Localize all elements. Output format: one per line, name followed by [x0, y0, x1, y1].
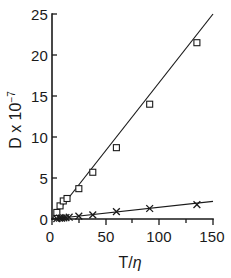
x-axis-title-numerator: T [118, 254, 128, 271]
x-tick-label-0: 0 [46, 228, 55, 245]
y-tick-label-25: 25 [31, 6, 48, 23]
y-tick-label-20: 20 [31, 47, 48, 64]
y-axis-title-main: D x 10 [7, 102, 24, 148]
data-point-square [90, 169, 96, 175]
x-tick-label-50: 50 [97, 228, 114, 245]
x-axis-title: T/η [118, 254, 141, 271]
x-tick-label-100: 100 [146, 228, 172, 245]
x-axis-title-denominator: η [133, 254, 142, 271]
x-axis-tick-labels: 0 50 100 150 [46, 228, 225, 245]
y-tick-label-5: 5 [39, 170, 48, 187]
series-markers [53, 40, 200, 222]
data-point-square [113, 145, 119, 151]
y-tick-label-15: 15 [31, 88, 48, 105]
y-tick-label-10: 10 [31, 129, 48, 146]
data-point-square [64, 196, 70, 202]
data-point-square [194, 40, 200, 46]
data-point-square [147, 101, 153, 107]
x-axis-ticks [52, 219, 213, 225]
scatter-plot: 0 5 10 15 20 25 0 50 100 150 D x 1 [0, 0, 231, 278]
x-tick-label-150: 150 [199, 228, 225, 245]
fit-line-crosses [52, 201, 213, 219]
chart-figure: 0 5 10 15 20 25 0 50 100 150 D x 1 [0, 0, 231, 278]
y-tick-label-0: 0 [39, 211, 48, 228]
y-axis-tick-labels: 0 5 10 15 20 25 [31, 6, 48, 228]
data-point-square [76, 186, 82, 192]
y-axis-title: D x 10−7 [6, 91, 24, 149]
data-point-cross [194, 201, 201, 208]
axis-titles: D x 10−7 T/η [6, 91, 142, 271]
y-axis-title-exponent: −7 [6, 91, 17, 103]
